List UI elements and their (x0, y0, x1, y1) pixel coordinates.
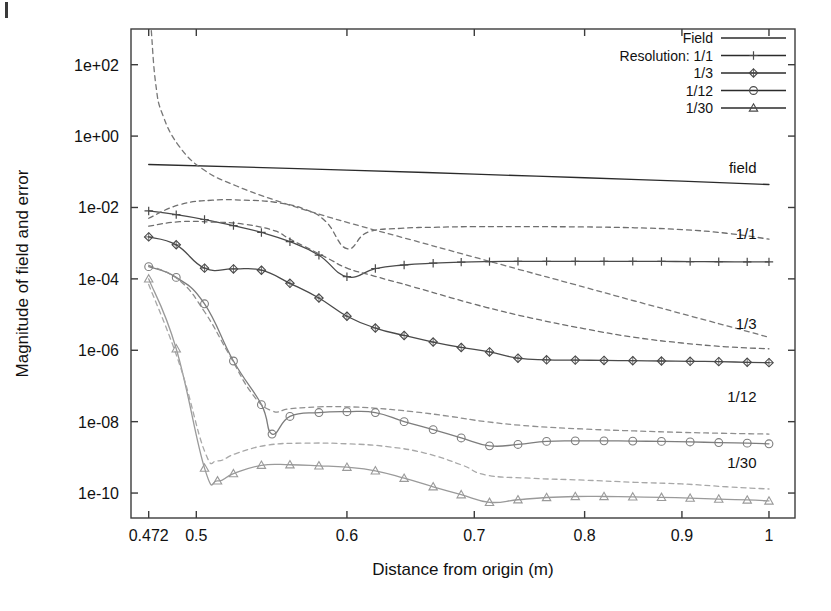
annotation-field: field (729, 159, 757, 176)
annotation-1-3: 1/3 (736, 315, 757, 332)
figure-container: 0.4720.50.60.70.80.911e+021e+001e-021e-0… (0, 0, 831, 611)
marker-plus (657, 257, 665, 265)
marker-diamond-cross (429, 338, 437, 346)
y-tick-label: 1e-02 (78, 199, 119, 216)
series-line-resolution-1-1-error (149, 211, 769, 277)
marker-plus (343, 273, 351, 281)
marker-plus (457, 258, 465, 266)
marker-plus (172, 210, 180, 218)
marker-diamond-cross (371, 324, 379, 332)
marker-plus (542, 257, 550, 265)
marker-plus (485, 257, 493, 265)
marker-diamond-cross (765, 358, 773, 366)
legend-label-1-12: 1/12 (686, 83, 713, 99)
x-axis-title: Distance from origin (m) (372, 560, 553, 579)
y-tick-label: 1e-10 (78, 485, 119, 502)
marker-plus (144, 207, 152, 215)
marker-diamond-cross (600, 356, 608, 364)
marker-diamond-cross (286, 279, 294, 287)
marker-diamond-cross (743, 358, 751, 366)
marker-diamond-cross (343, 312, 351, 320)
marker-diamond-cross (657, 357, 665, 365)
y-tick-label: 1e-08 (78, 414, 119, 431)
marker-plus (600, 257, 608, 265)
marker-plus (286, 237, 294, 245)
marker-plus (765, 258, 773, 266)
marker-diamond-cross (200, 264, 208, 272)
x-tick-label: 0.6 (336, 527, 358, 544)
marker-plus (715, 258, 723, 266)
marker-plus (571, 257, 579, 265)
marker-diamond-cross (229, 265, 237, 273)
series-group (144, 31, 773, 506)
marker-diamond-cross (629, 357, 637, 365)
series-line-field (149, 165, 769, 185)
chart-svg: 0.4720.50.60.70.80.911e+021e+001e-021e-0… (0, 0, 831, 611)
annotation-1-1: 1/1 (736, 225, 757, 242)
x-tick-label: 0.5 (185, 527, 207, 544)
marker-plus (371, 264, 379, 272)
annotation-1-30: 1/30 (727, 454, 756, 471)
marker-plus (629, 257, 637, 265)
x-tick-label: 1 (765, 527, 774, 544)
marker-diamond-cross (144, 233, 152, 241)
legend-label-resolution-1-1: Resolution: 1/1 (620, 48, 714, 64)
marker-diamond-cross (715, 357, 723, 365)
marker-plus (743, 258, 751, 266)
y-tick-label: 1e-04 (78, 271, 119, 288)
x-tick-label: 0.9 (671, 527, 693, 544)
legend-label-1-3: 1/3 (694, 65, 714, 81)
x-tick-label: 0.7 (463, 527, 485, 544)
x-tick-label: 0.472 (129, 527, 169, 544)
marker-plus (200, 215, 208, 223)
y-tick-label: 1e+00 (74, 128, 119, 145)
legend-label-field: Field (683, 30, 713, 46)
annotation-1-12: 1/12 (727, 388, 756, 405)
y-tick-label: 1e-06 (78, 342, 119, 359)
marker-diamond-cross (315, 294, 323, 302)
marker-diamond-cross (571, 356, 579, 364)
marker-diamond-cross (400, 331, 408, 339)
marker-plus (257, 228, 265, 236)
legend-label-1-30: 1/30 (686, 100, 713, 116)
marker-plus (400, 261, 408, 269)
marker-plus (514, 257, 522, 265)
marker-diamond-cross (749, 69, 757, 77)
x-tick-label: 0.8 (573, 527, 595, 544)
y-axis-title: Magnitude of field and error (13, 169, 32, 377)
y-tick-label: 1e+02 (74, 57, 119, 74)
marker-plus (429, 259, 437, 267)
marker-diamond-cross (686, 357, 694, 365)
marker-plus (686, 257, 694, 265)
series-line-resolution-1-1-upper-divergence (151, 31, 769, 338)
series-line-resolution-1-3-bound (149, 221, 769, 349)
marker-plus (749, 51, 757, 59)
marker-diamond-cross (542, 356, 550, 364)
marker-diamond-cross (172, 241, 180, 249)
series-line-resolution-1-12-error (149, 267, 769, 447)
series-line-resolution-1-30-bound (149, 284, 769, 489)
marker-diamond-cross (485, 348, 493, 356)
marker-diamond-cross (257, 266, 265, 274)
page-edge-mark (5, 2, 8, 18)
marker-diamond-cross (457, 343, 465, 351)
marker-diamond-cross (514, 354, 522, 362)
